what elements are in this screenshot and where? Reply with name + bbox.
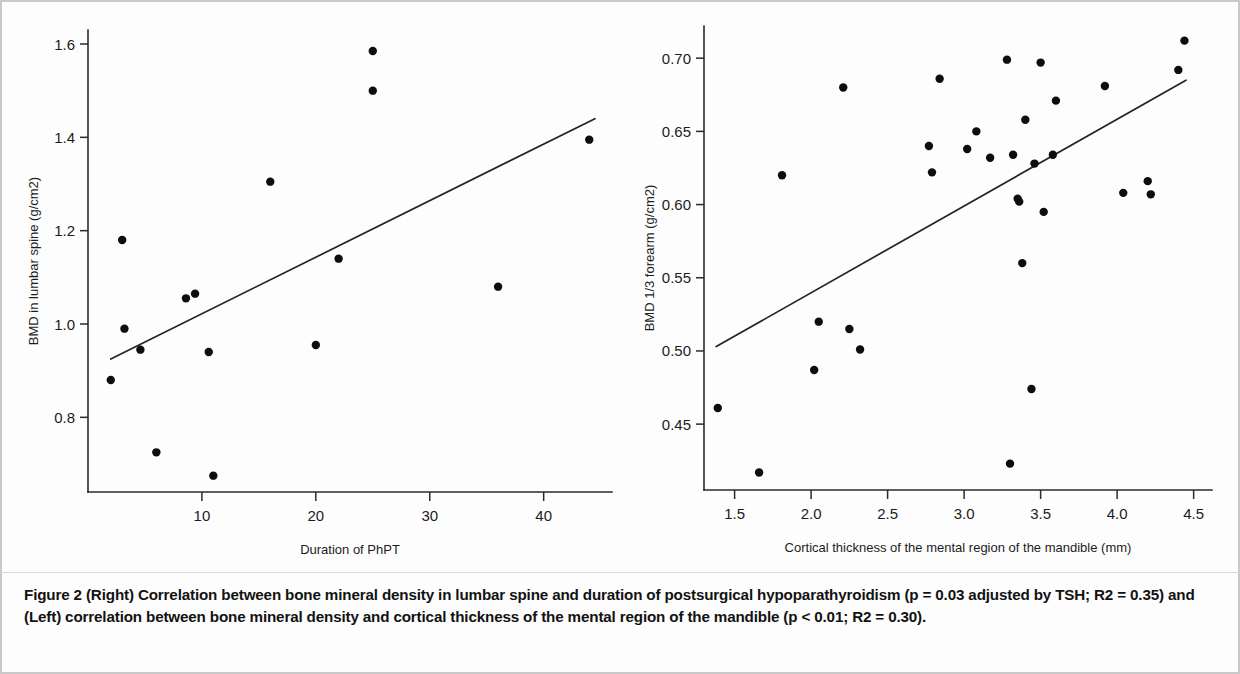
data-point [1015, 197, 1023, 205]
x-axis-title: Duration of PhPT [300, 542, 400, 557]
y-tick-label: 0.70 [662, 50, 691, 67]
data-point [136, 345, 144, 353]
data-point [191, 289, 199, 297]
y-tick-label: 0.45 [662, 416, 691, 433]
x-tick-label: 2.0 [801, 505, 822, 522]
data-point [928, 168, 936, 176]
data-point [815, 317, 823, 325]
data-point [986, 154, 994, 162]
data-point [494, 282, 502, 290]
data-point [1052, 96, 1060, 104]
data-point [1018, 259, 1026, 267]
data-point [1101, 82, 1109, 90]
y-tick-label: 0.55 [662, 269, 691, 286]
x-tick-label: 4.0 [1107, 505, 1128, 522]
data-point [205, 348, 213, 356]
data-point [107, 376, 115, 384]
y-tick-label: 0.8 [54, 409, 75, 426]
y-tick-label: 1.2 [54, 222, 75, 239]
x-tick-label: 1.5 [724, 505, 745, 522]
figure-caption-text: Figure 2 (Right) Correlation between bon… [24, 584, 1218, 629]
y-axis-title: BMD in lumbar spine (g/cm2) [26, 177, 41, 345]
data-point [1009, 151, 1017, 159]
x-tick-label: 3.5 [1030, 505, 1051, 522]
data-point [755, 468, 763, 476]
data-point [118, 236, 126, 244]
y-tick-label: 1.0 [54, 316, 75, 333]
data-point [1049, 151, 1057, 159]
data-point [778, 171, 786, 179]
data-point [1021, 115, 1029, 123]
data-point [334, 254, 342, 262]
scatter-plot-right: 0.450.500.550.600.650.701.52.02.53.03.54… [632, 0, 1240, 578]
data-point [714, 404, 722, 412]
data-point [1119, 189, 1127, 197]
data-point [856, 345, 864, 353]
data-point [182, 294, 190, 302]
x-tick-label: 20 [307, 507, 324, 524]
y-tick-label: 0.50 [662, 342, 691, 359]
data-point [369, 47, 377, 55]
x-tick-label: 40 [535, 507, 552, 524]
data-point [963, 145, 971, 153]
data-point [369, 86, 377, 94]
data-point [266, 177, 274, 185]
data-point [925, 142, 933, 150]
figure-number-label: Figure 2 [24, 586, 86, 603]
data-point [1180, 36, 1188, 44]
figure-container: 0.81.01.21.41.610203040Duration of PhPTB… [0, 0, 1240, 674]
x-tick-label: 10 [194, 507, 211, 524]
data-point [1027, 385, 1035, 393]
scatter-plot-left: 0.81.01.21.41.610203040Duration of PhPTB… [0, 0, 632, 578]
figure-caption: Figure 2 (Right) Correlation between bon… [0, 578, 1240, 674]
x-tick-label: 4.5 [1183, 505, 1204, 522]
data-point [120, 324, 128, 332]
data-point [1006, 459, 1014, 467]
regression-line [716, 80, 1186, 346]
y-tick-label: 0.65 [662, 123, 691, 140]
data-point [1144, 177, 1152, 185]
data-point [972, 127, 980, 135]
x-tick-label: 30 [421, 507, 438, 524]
regression-line [111, 119, 595, 359]
y-tick-label: 1.6 [54, 36, 75, 53]
x-tick-label: 3.0 [954, 505, 975, 522]
data-point [1147, 190, 1155, 198]
data-point [845, 325, 853, 333]
data-point [585, 135, 593, 143]
data-point [1030, 159, 1038, 167]
y-axis-title: BMD 1/3 forearm (g/cm2) [642, 185, 657, 332]
data-point [152, 448, 160, 456]
plot-svg-lumbar-spine: 0.81.01.21.41.610203040Duration of PhPTB… [0, 0, 632, 578]
data-point [312, 341, 320, 349]
data-point [209, 471, 217, 479]
figure-caption-body: (Right) Correlation between bone mineral… [24, 586, 1195, 625]
data-point [1039, 208, 1047, 216]
data-point [1036, 58, 1044, 66]
data-point [1003, 55, 1011, 63]
x-tick-label: 2.5 [877, 505, 898, 522]
data-point [935, 74, 943, 82]
data-point [1174, 66, 1182, 74]
x-axis-title: Cortical thickness of the mental region … [785, 540, 1132, 555]
y-tick-label: 1.4 [54, 129, 75, 146]
y-tick-label: 0.60 [662, 196, 691, 213]
data-point [839, 83, 847, 91]
data-point [810, 366, 818, 374]
plot-svg-forearm: 0.450.500.550.600.650.701.52.02.53.03.54… [632, 0, 1240, 578]
